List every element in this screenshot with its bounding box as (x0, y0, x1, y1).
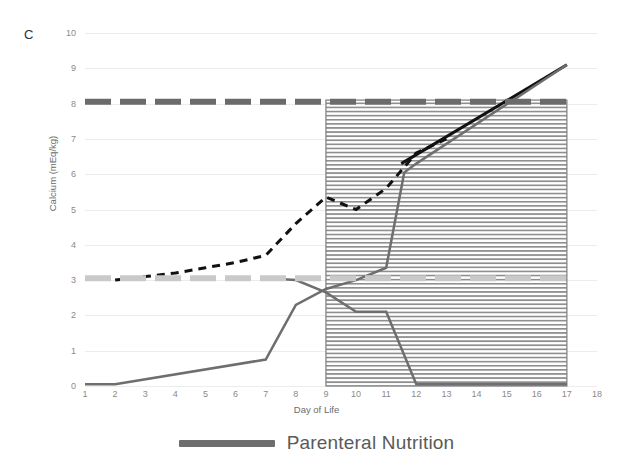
legend-label-parenteral-nutrition: Parenteral Nutrition (287, 432, 455, 454)
legend-swatch-parenteral-nutrition (179, 440, 275, 447)
chart-figure: C 012345678910 1234567891011121314151617… (0, 0, 633, 470)
chart-legend: Parenteral Nutrition (0, 432, 633, 454)
series-layer (0, 0, 633, 470)
